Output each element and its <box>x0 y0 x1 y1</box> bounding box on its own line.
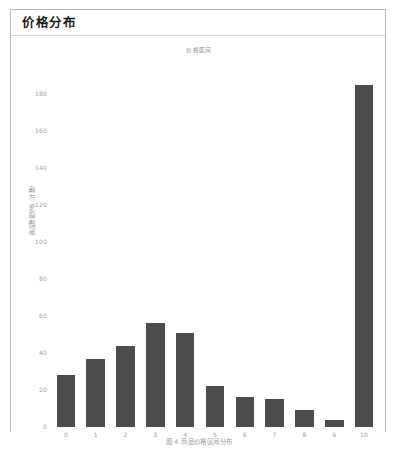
bar[interactable] <box>295 410 313 427</box>
bar[interactable] <box>57 375 75 427</box>
bar-group: 6 <box>236 72 254 427</box>
y-tick-label: 80 <box>39 275 47 283</box>
bar[interactable] <box>236 397 254 427</box>
bar-group: 3 <box>146 72 164 427</box>
bar[interactable] <box>176 333 194 427</box>
panel-header: 价格分布 <box>11 10 385 36</box>
plot-area: 020406080100120140160180 012345678910 <box>51 72 379 427</box>
bar-group: 10 <box>355 72 373 427</box>
chart-title: 价格区间 <box>11 46 387 54</box>
y-tick-label: 20 <box>39 386 47 394</box>
bar-group: 1 <box>86 72 104 427</box>
bar-group: 5 <box>206 72 224 427</box>
bar-group: 9 <box>325 72 343 427</box>
bar-group: 8 <box>295 72 313 427</box>
y-tick-label: 60 <box>39 312 47 320</box>
y-tick-label: 140 <box>35 164 47 172</box>
bar[interactable] <box>146 323 164 427</box>
bar[interactable] <box>86 359 104 427</box>
bar-group: 7 <box>265 72 283 427</box>
bar[interactable] <box>355 85 373 427</box>
screenshot-root: 价格分布 价格区间 商品数量分布（计数） 0204060801001201401… <box>0 0 398 451</box>
bar[interactable] <box>265 399 283 427</box>
y-tick-label: 120 <box>35 201 47 209</box>
bar[interactable] <box>116 346 134 427</box>
y-tick-label: 100 <box>35 238 47 246</box>
figure-caption: 图 4 商品价格区间分布 <box>0 437 398 447</box>
panel-body: 价格区间 商品数量分布（计数） 020406080100120140160180… <box>11 37 385 432</box>
y-tick-label: 180 <box>35 90 47 98</box>
bar-group: 4 <box>176 72 194 427</box>
bar-series: 012345678910 <box>51 72 379 427</box>
y-tick-label: 160 <box>35 127 47 135</box>
bar-group: 2 <box>116 72 134 427</box>
y-tick-label: 40 <box>39 349 47 357</box>
bar-chart: 价格区间 商品数量分布（计数） 020406080100120140160180… <box>11 37 387 432</box>
price-distribution-panel: 价格分布 价格区间 商品数量分布（计数） 0204060801001201401… <box>10 9 386 432</box>
bar-group: 0 <box>57 72 75 427</box>
panel-title: 价格分布 <box>22 14 76 31</box>
bar[interactable] <box>325 420 343 427</box>
bar[interactable] <box>206 386 224 427</box>
y-tick-label: 0 <box>43 423 47 431</box>
